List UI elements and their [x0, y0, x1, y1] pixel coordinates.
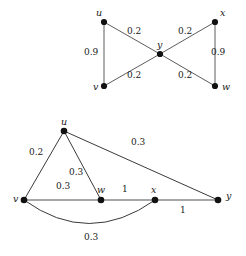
- edge-weight-u-v-bottom: 0.2: [29, 148, 43, 157]
- edge-weight-x-w-top: 0.9: [211, 48, 225, 57]
- vertex-label-x-bottom: x: [151, 185, 156, 195]
- vertex-label-y-top: y: [157, 40, 162, 50]
- edge-weight-u-y-bottom: 0.3: [131, 138, 145, 147]
- edge-weight-v-w-bottom: 0.3: [56, 182, 70, 191]
- edge-weight-u-v-top: 0.9: [84, 48, 98, 57]
- vertex-label-w-top: w: [222, 82, 230, 92]
- edge-weight-u-y-top: 0.2: [127, 27, 141, 36]
- vertex-label-x-top: x: [220, 8, 225, 18]
- vertex-label-u-bottom: u: [61, 117, 67, 127]
- vertex-y-bottom: [215, 197, 222, 204]
- vertex-label-y-bottom: y: [226, 191, 231, 201]
- vertex-label-w-bottom: w: [97, 185, 105, 195]
- top-graph-vertices: [101, 19, 218, 89]
- edge-weight-v-y-top: 0.2: [127, 71, 141, 80]
- edge-weight-w-y-top: 0.2: [178, 71, 192, 80]
- vertex-label-v-top: v: [93, 82, 98, 92]
- vertex-x-top: [212, 19, 218, 25]
- graph-figure: u x y v w 0.9 0.9 0.2 0.2 0.2 0.2 u v w …: [0, 0, 246, 256]
- edge-v-x-bottom-arc: [24, 200, 155, 224]
- vertex-u-top: [101, 19, 107, 25]
- edge-weight-u-w-bottom: 0.3: [69, 168, 83, 177]
- vertex-v-top: [101, 83, 107, 89]
- vertex-w-top: [212, 83, 218, 89]
- graph-canvas: [0, 0, 246, 256]
- vertex-v-bottom: [21, 197, 28, 204]
- bottom-graph-vertices: [21, 128, 222, 204]
- bottom-graph-edges: [24, 131, 218, 224]
- edge-weight-w-x-bottom: 1: [122, 185, 128, 194]
- vertex-u-bottom: [61, 128, 68, 135]
- edge-weight-x-y-bottom: 1: [180, 206, 186, 215]
- vertex-x-bottom: [152, 197, 159, 204]
- edge-weight-x-y-top: 0.2: [178, 27, 192, 36]
- vertex-y-top: [157, 51, 163, 57]
- vertex-w-bottom: [98, 197, 105, 204]
- vertex-label-u-top: u: [96, 8, 102, 18]
- edge-weight-v-x-bottom: 0.3: [84, 233, 98, 242]
- vertex-label-v-bottom: v: [13, 194, 18, 204]
